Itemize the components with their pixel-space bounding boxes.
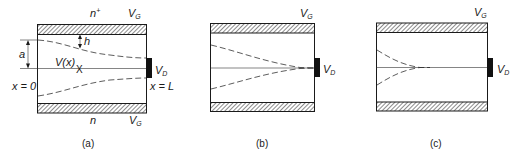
drain-voltage-label: VD — [323, 63, 335, 76]
depletion-boundary-bottom — [377, 68, 430, 86]
arrowhead-icon — [26, 40, 30, 45]
x-zero-label: x = 0 — [11, 80, 37, 92]
drain-contact — [314, 58, 320, 77]
drain-contact — [146, 58, 152, 78]
top-gate-hatch — [211, 24, 315, 34]
top-gate-voltage-label: VG — [300, 7, 313, 20]
h-label: h — [84, 35, 90, 47]
position-marker: X — [76, 64, 83, 75]
panel-a: n+ VG h a V(x) X VD x = 0 x = L n VG (a) — [11, 7, 174, 149]
caption-b: (b) — [256, 138, 268, 149]
n-plus-label: n+ — [90, 7, 100, 19]
bottom-gate-hatch — [38, 104, 147, 114]
arrowhead-icon — [78, 35, 82, 40]
potential-label: V(x) — [55, 56, 76, 68]
bottom-gate-voltage-label: VG — [129, 114, 142, 127]
panel-c: VG VD (c) — [377, 6, 510, 149]
bottom-gate-hatch — [211, 103, 315, 112]
depletion-boundary-top — [377, 50, 430, 68]
arrowhead-icon — [78, 44, 82, 49]
panel-b: VG VD (b) — [211, 7, 336, 149]
a-label: a — [19, 48, 25, 60]
depletion-boundary-bottom — [211, 68, 314, 89]
caption-c: (c) — [430, 138, 442, 149]
n-label: n — [90, 114, 96, 126]
drain-contact — [487, 58, 493, 77]
top-gate-voltage-label: VG — [474, 6, 487, 19]
caption-a: (a) — [82, 138, 94, 149]
arrowhead-icon — [26, 64, 30, 69]
drain-voltage-label: VD — [155, 64, 167, 77]
drain-voltage-label: VD — [497, 63, 509, 76]
bottom-gate-hatch — [377, 102, 488, 111]
top-gate-hatch — [38, 25, 147, 35]
top-gate-hatch — [377, 23, 488, 33]
depletion-boundary-top — [211, 45, 314, 68]
depletion-boundary-bottom — [38, 78, 146, 96]
jfet-diagram: n+ VG h a V(x) X VD x = 0 x = L n VG (a)… — [0, 0, 519, 152]
top-gate-voltage-label: VG — [128, 7, 141, 20]
x-l-label: x = L — [149, 80, 174, 92]
